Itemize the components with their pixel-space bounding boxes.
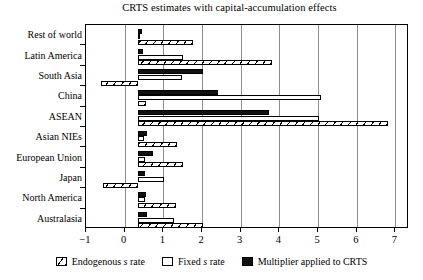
y-axis-label: Rest of world — [0, 29, 82, 40]
y-axis-labels: Rest of worldLatin AmericaSouth AsiaChin… — [0, 24, 82, 228]
legend-label: Multiplier applied to CRTS — [258, 256, 368, 267]
gridline — [395, 25, 396, 227]
x-axis-tick — [317, 228, 318, 232]
x-axis-tick-label: 4 — [276, 234, 281, 245]
chart-title: CRTS estimates with capital-accumulation… — [0, 2, 423, 13]
x-axis-tick — [394, 228, 395, 232]
x-axis-tick-label: 1 — [160, 234, 165, 245]
bar-endogenous — [101, 81, 138, 86]
bar-fixed — [138, 34, 140, 39]
bar-endogenous — [138, 40, 193, 45]
bar-multiplier — [138, 29, 142, 34]
bar-multiplier — [138, 69, 203, 74]
x-axis-tick — [162, 228, 163, 232]
bar-endogenous — [138, 142, 177, 147]
bar-endogenous — [138, 203, 176, 208]
x-axis-tick — [278, 228, 279, 232]
legend-label: Fixed s rate — [178, 256, 225, 267]
bar-fixed — [138, 218, 174, 223]
x-axis-tick-label: 6 — [353, 234, 358, 245]
x-axis-tick-label: 3 — [237, 234, 242, 245]
y-axis-label: Asian NIEs — [0, 131, 82, 142]
bar-fixed — [138, 75, 181, 80]
bar-fixed — [138, 116, 319, 121]
y-axis-label: South Asia — [0, 70, 82, 81]
y-axis-label: North America — [0, 192, 82, 203]
bar-endogenous — [138, 121, 388, 126]
x-axis-tick — [356, 228, 357, 232]
bar-endogenous — [138, 162, 182, 167]
x-axis-tick-label: −1 — [79, 234, 90, 245]
bar-endogenous — [103, 183, 138, 188]
legend-swatch-endogenous — [56, 257, 67, 266]
x-axis-tick-label: 2 — [198, 234, 203, 245]
legend-entry: Fixed s rate — [162, 256, 225, 267]
plot-area — [85, 24, 408, 228]
x-axis-tick-label: 5 — [314, 234, 319, 245]
bar-multiplier — [138, 212, 147, 217]
x-axis-tick — [240, 228, 241, 232]
x-axis-tick — [124, 228, 125, 232]
bar-fixed — [138, 197, 145, 202]
bar-multiplier — [138, 171, 145, 176]
x-axis-tick — [201, 228, 202, 232]
bar-fixed — [138, 136, 144, 141]
chart-container: CRTS estimates with capital-accumulation… — [0, 0, 423, 280]
legend-swatch-fixed — [162, 257, 173, 266]
bar-multiplier — [138, 110, 268, 115]
bar-multiplier — [138, 90, 218, 95]
y-axis-label: European Union — [0, 151, 82, 162]
bar-endogenous — [138, 101, 146, 106]
chart-legend: Endogenous s rateFixed s rateMultiplier … — [0, 251, 423, 271]
bar-multiplier — [138, 131, 147, 136]
x-axis-tick-label: 7 — [392, 234, 397, 245]
x-axis: −101234567 — [85, 228, 408, 229]
y-axis-label: ASEAN — [0, 110, 82, 121]
bar-fixed — [138, 55, 183, 60]
bar-multiplier — [138, 192, 146, 197]
y-axis-label: Australasia — [0, 212, 82, 223]
legend-swatch-multiplier — [242, 257, 253, 266]
y-axis-label: Latin America — [0, 49, 82, 60]
legend-entry: Multiplier applied to CRTS — [242, 256, 368, 267]
bar-endogenous — [138, 60, 272, 65]
bar-multiplier — [138, 151, 152, 156]
x-axis-tick — [85, 228, 86, 232]
gridline — [125, 25, 126, 227]
bar-fixed — [138, 95, 321, 100]
y-axis-label: China — [0, 90, 82, 101]
bar-fixed — [138, 177, 164, 182]
bar-multiplier — [138, 49, 143, 54]
x-axis-tick-label: 0 — [121, 234, 126, 245]
bar-fixed — [138, 157, 145, 162]
legend-label: Endogenous s rate — [72, 256, 145, 267]
legend-entry: Endogenous s rate — [56, 256, 145, 267]
y-axis-label: Japan — [0, 172, 82, 183]
